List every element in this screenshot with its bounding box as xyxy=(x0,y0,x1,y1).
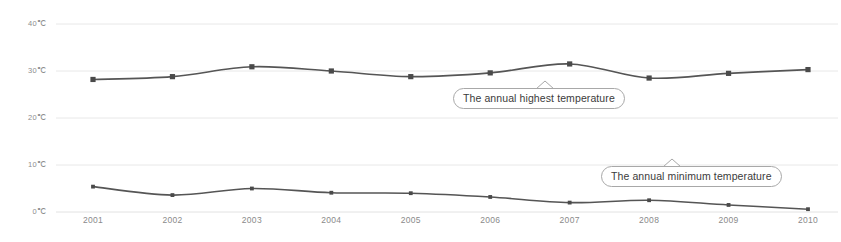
x-tick-label-2004: 2004 xyxy=(304,216,358,225)
series-line-1 xyxy=(93,187,808,210)
data-point-1-8 xyxy=(727,203,731,207)
data-point-1-9 xyxy=(806,207,810,211)
chart-plot-area xyxy=(0,0,841,242)
data-point-1-2 xyxy=(250,187,254,191)
x-tick-label-2009: 2009 xyxy=(702,216,756,225)
annotation-minimum-temperature: The annual minimum temperature xyxy=(601,166,782,187)
series-line-0 xyxy=(93,64,808,80)
data-point-1-6 xyxy=(568,201,572,205)
x-tick-label-2006: 2006 xyxy=(463,216,517,225)
data-point-0-3 xyxy=(329,68,334,73)
data-point-1-3 xyxy=(329,191,333,195)
data-point-0-7 xyxy=(647,75,652,80)
data-point-0-2 xyxy=(249,64,254,69)
y-tick-label-40: 40℃ xyxy=(2,20,46,28)
data-point-0-9 xyxy=(805,67,810,72)
x-tick-label-2008: 2008 xyxy=(622,216,676,225)
y-tick-label-10: 10℃ xyxy=(2,161,46,169)
data-point-1-4 xyxy=(409,191,413,195)
data-point-0-6 xyxy=(567,61,572,66)
data-point-0-8 xyxy=(726,71,731,76)
series-markers xyxy=(90,61,810,211)
annotation-highest-temperature: The annual highest temperature xyxy=(453,88,625,109)
data-point-0-0 xyxy=(90,77,95,82)
y-tick-label-0: 0℃ xyxy=(2,208,46,216)
temperature-line-chart: 40℃30℃20℃10℃0℃ 2001200220032004200520062… xyxy=(0,0,841,242)
x-tick-label-2002: 2002 xyxy=(145,216,199,225)
x-tick-label-2005: 2005 xyxy=(384,216,438,225)
x-tick-label-2007: 2007 xyxy=(543,216,597,225)
data-point-1-5 xyxy=(488,195,492,199)
data-point-0-4 xyxy=(408,74,413,79)
data-point-0-1 xyxy=(170,74,175,79)
x-tick-label-2010: 2010 xyxy=(781,216,835,225)
y-tick-label-30: 30℃ xyxy=(2,67,46,75)
x-tick-label-2001: 2001 xyxy=(66,216,120,225)
x-tick-label-2003: 2003 xyxy=(225,216,279,225)
data-point-0-5 xyxy=(488,70,493,75)
data-point-1-0 xyxy=(91,185,95,189)
data-point-1-1 xyxy=(171,193,175,197)
y-tick-label-20: 20℃ xyxy=(2,114,46,122)
data-point-1-7 xyxy=(647,198,651,202)
series-lines xyxy=(93,64,808,209)
